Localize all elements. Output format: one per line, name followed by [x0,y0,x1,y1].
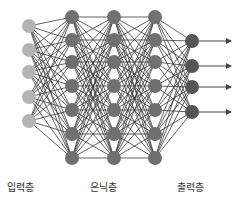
hidden-node [107,55,121,69]
hidden-node [65,79,79,93]
hidden-node [107,151,121,165]
hidden-node [148,10,162,24]
hidden-node [65,33,79,47]
hidden-node [107,103,121,117]
input-node [22,90,36,104]
hidden-node [65,127,79,141]
output-layer-label: 출력층 [177,179,204,194]
output-node [185,59,199,73]
hidden-node [148,33,162,47]
hidden-node [148,103,162,117]
hidden-node [65,10,79,24]
input-node [22,43,36,57]
output-node [185,80,199,94]
input-node [22,19,36,33]
hidden-node [107,79,121,93]
output-arrows [199,41,231,112]
hidden-node [148,127,162,141]
hidden-layer-label: 은닉층 [90,179,117,194]
input-node [22,65,36,79]
hidden-node [65,151,79,165]
input-node [22,114,36,128]
hidden-node [148,55,162,69]
hidden-node [65,103,79,117]
neural-network-diagram [0,0,246,217]
hidden-node [148,151,162,165]
input-layer-label: 입력층 [7,179,34,194]
hidden-node [107,127,121,141]
output-node [185,34,199,48]
hidden-node [65,55,79,69]
edge [155,87,192,158]
hidden-node [107,10,121,24]
hidden-node [107,33,121,47]
hidden-node [148,79,162,93]
output-node [185,105,199,119]
